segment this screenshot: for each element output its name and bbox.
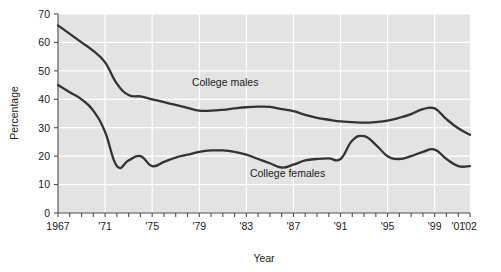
plot-area-background [58, 14, 470, 213]
x-tick-label: 1967 [46, 220, 70, 232]
x-tick-label: '87 [287, 220, 301, 232]
y-tick-label: 20 [38, 150, 50, 162]
y-tick-label: 10 [38, 178, 50, 190]
x-axis-title: Year [253, 252, 275, 264]
x-tick-label: '95 [381, 220, 395, 232]
x-tick-label: '83 [239, 220, 253, 232]
series-label-college-males: College males [192, 76, 259, 88]
y-tick-label: 0 [44, 207, 50, 219]
line-chart: 010203040506070 1967'71'75'79'83'87'91'9… [0, 0, 501, 272]
y-tick-label: 50 [38, 65, 50, 77]
x-tick-label: '02 [463, 220, 477, 232]
y-tick-label: 30 [38, 122, 50, 134]
x-tick-label: '71 [98, 220, 112, 232]
x-tick-label: '91 [334, 220, 348, 232]
y-tick-label: 60 [38, 36, 50, 48]
x-tick-label: '79 [192, 220, 206, 232]
series-label-college-females: College females [250, 167, 325, 179]
y-tick-label: 70 [38, 8, 50, 20]
x-tick-label: '99 [428, 220, 442, 232]
y-tick-label: 40 [38, 93, 50, 105]
y-axis-title: Percentage [8, 86, 20, 140]
chart-container: 010203040506070 1967'71'75'79'83'87'91'9… [0, 0, 501, 272]
x-tick-label: '75 [145, 220, 159, 232]
